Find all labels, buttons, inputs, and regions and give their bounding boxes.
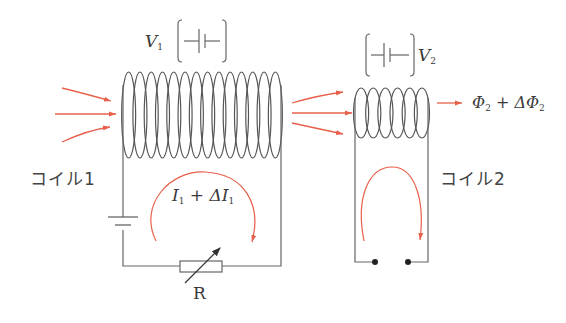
coil-2 (354, 88, 430, 138)
induced-current-arrow (361, 167, 421, 241)
battery-icon (108, 217, 138, 225)
variable-resistor-icon (180, 248, 222, 283)
current-label: I1 + ΔI1 (172, 185, 234, 206)
coil-1 (122, 72, 283, 158)
circuit-diagram (0, 0, 566, 323)
coil-2-terminals (372, 259, 411, 265)
transfer-flux-arrows (292, 92, 352, 134)
flux-label: Φ2 + ΔΦ2 (472, 93, 545, 113)
voltage-v2-label: V2 (418, 45, 436, 66)
resistor-label: R (193, 283, 206, 303)
incoming-flux-arrows (55, 88, 116, 142)
battery-symbol-v2 (366, 34, 414, 76)
coil-1-label: コイル1 (30, 165, 96, 190)
current-loop-arrow (151, 172, 255, 242)
voltage-v1-label: V1 (145, 31, 163, 52)
battery-symbol-v1 (178, 20, 226, 62)
coil-2-label: コイル2 (440, 165, 506, 190)
